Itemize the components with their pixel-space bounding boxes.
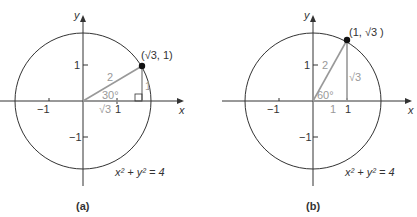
tick-x-pos-a: 1 bbox=[115, 103, 121, 115]
caption-a: (a) bbox=[76, 200, 90, 212]
tick-y-pos-a: 1 bbox=[74, 59, 80, 71]
tick-x-pos-b: 1 bbox=[345, 103, 351, 115]
y-axis-arrow-icon bbox=[310, 15, 316, 22]
panel-a: y x −1 1 1 −1 (√3, 1) 2 30° 1 √3 x² + y²… bbox=[0, 9, 185, 212]
opposite-label-a: 1 bbox=[145, 80, 151, 92]
y-axis-label-b: y bbox=[303, 9, 311, 21]
tick-x-neg-a: −1 bbox=[37, 103, 50, 115]
tick-x-neg-b: −1 bbox=[267, 103, 280, 115]
opposite-label-b: √3 bbox=[349, 71, 361, 83]
caption-b: (b) bbox=[306, 200, 320, 212]
adjacent-label-b: 1 bbox=[330, 103, 336, 115]
panel-b: y x −1 1 1 −1 (1, √3 ) 2 60° √3 1 x² + y… bbox=[222, 9, 414, 212]
y-axis-label-a: y bbox=[73, 9, 81, 21]
tick-y-neg-a: −1 bbox=[69, 131, 82, 143]
point-label-a: (√3, 1) bbox=[141, 49, 173, 61]
figure-canvas: y x −1 1 1 −1 (√3, 1) 2 30° 1 √3 x² + y²… bbox=[0, 0, 417, 217]
x-axis-label-a: x bbox=[178, 104, 185, 116]
tick-y-pos-b: 1 bbox=[304, 59, 310, 71]
right-angle-marker-a bbox=[135, 94, 142, 101]
hypotenuse-label-a: 2 bbox=[107, 71, 113, 83]
point-a bbox=[139, 63, 145, 69]
equation-a: x² + y² = 4 bbox=[114, 166, 165, 178]
equation-b: x² + y² = 4 bbox=[344, 166, 395, 178]
point-label-b: (1, √3 ) bbox=[349, 26, 384, 38]
angle-label-a: 30° bbox=[102, 89, 119, 101]
y-axis-arrow-icon bbox=[80, 15, 86, 22]
x-axis-label-b: x bbox=[407, 104, 414, 116]
angle-label-b: 60° bbox=[317, 89, 334, 101]
hypotenuse-label-b: 2 bbox=[322, 59, 328, 71]
adjacent-label-a: √3 bbox=[99, 103, 111, 115]
tick-y-neg-b: −1 bbox=[299, 131, 312, 143]
